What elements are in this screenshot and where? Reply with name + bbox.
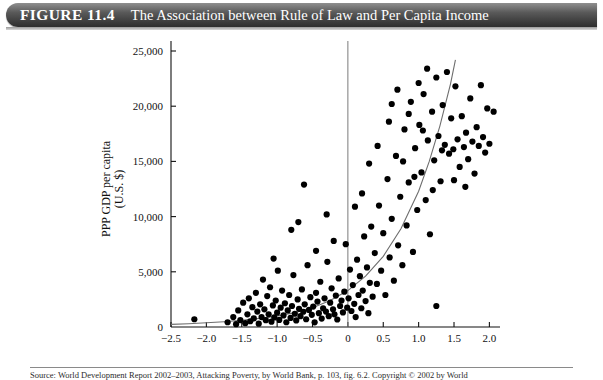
scatter-point [459,113,465,119]
scatter-point [276,317,282,323]
scatter-point [264,293,270,299]
scatter-point [257,301,263,307]
scatter-point [480,134,486,140]
scatter-point [361,233,367,239]
scatter-point [433,303,439,309]
scatter-point [420,91,426,97]
scatter-point [316,310,322,316]
scatter-point [327,300,333,306]
scatter-point [304,262,310,268]
x-tick-label: 0 [345,332,351,344]
scatter-point [314,299,320,305]
scatter-point [418,169,424,175]
y-tick-label: 20,000 [133,100,164,112]
y-tick-label: 25,000 [133,45,164,57]
scatter-point [270,255,276,261]
x-tick-label: −1.0 [267,332,287,344]
x-tick-label: 1.5 [447,332,461,344]
scatter-point [266,311,272,317]
scatter-point [448,115,454,121]
scatter-point [380,230,386,236]
scatter-point [256,321,262,327]
scatter-point [353,314,359,320]
scatter-point [440,102,446,108]
scatter-point [463,130,469,136]
scatter-point [310,303,316,309]
figure-number: FIGURE 11.4 [20,6,115,24]
scatter-point [295,219,301,225]
scatter-point [273,297,279,303]
y-tick-label: 15,000 [133,155,164,167]
scatter-chart: 05,00010,00015,00020,00025,000−2.5−2.0−1… [0,32,603,344]
scatter-point [334,316,340,322]
scatter-point [387,254,393,260]
scatter-point [365,310,371,316]
y-axis-title-line2: (U.S. $) [112,170,126,208]
scatter-point [280,312,286,318]
scatter-point [454,136,460,142]
scatter-point [290,272,296,278]
scatter-point [260,276,266,282]
scatter-point [423,197,429,203]
scatter-point [286,292,292,298]
scatter-point [435,133,441,139]
x-tick-label: −1.5 [232,332,252,344]
scatter-point [337,303,343,309]
scatter-point [225,319,231,325]
scatter-point [462,184,468,190]
scatter-point [439,147,445,153]
scatter-point [444,69,450,75]
chart-plot-area: 05,00010,00015,00020,00025,000−2.5−2.0−1… [0,32,603,344]
scatter-point [457,164,463,170]
scatter-point [352,204,358,210]
scatter-point [313,248,319,254]
x-tick-label: 0.5 [376,332,390,344]
scatter-point [307,294,313,300]
scatter-point [319,316,325,322]
scatter-point [386,119,392,125]
scatter-point [249,304,255,310]
scatter-point [324,211,330,217]
x-tick-label: −2.5 [161,332,181,344]
scatter-point [261,306,267,312]
scatter-points [191,66,496,328]
scatter-point [326,313,332,319]
scatter-point [437,178,443,184]
scatter-point [429,109,435,115]
scatter-point [251,315,257,321]
scatter-point [375,143,381,149]
scatter-point [292,311,298,317]
scatter-point [244,311,250,317]
scatter-point [416,80,422,86]
scatter-point [461,144,467,150]
scatter-point [389,216,395,222]
scatter-point [467,95,473,101]
scatter-point [491,109,497,115]
scatter-point [350,282,356,288]
scatter-point [299,286,305,292]
x-tick-label: 2.0 [483,332,497,344]
scatter-point [324,259,330,265]
scatter-point [482,149,488,155]
scatter-point [400,158,406,164]
scatter-point [433,74,439,80]
scatter-point [282,300,288,306]
scatter-point [366,161,372,167]
scatter-point [393,153,399,159]
scatter-point [240,300,246,306]
scatter-point [300,309,306,315]
figure-title: The Association between Rule of Law and … [131,7,489,24]
scatter-point [450,146,456,152]
scatter-point [230,314,236,320]
scatter-point [267,284,273,290]
scatter-point [412,145,418,151]
scatter-point [360,287,366,293]
scatter-point [452,83,458,89]
scatter-point [336,275,342,281]
scatter-point [384,176,390,182]
scatter-point [442,142,448,148]
source-note: Source: World Development Report 2002–20… [30,370,590,380]
scatter-point [414,207,420,213]
scatter-point [370,294,376,300]
scatter-point [404,222,410,228]
